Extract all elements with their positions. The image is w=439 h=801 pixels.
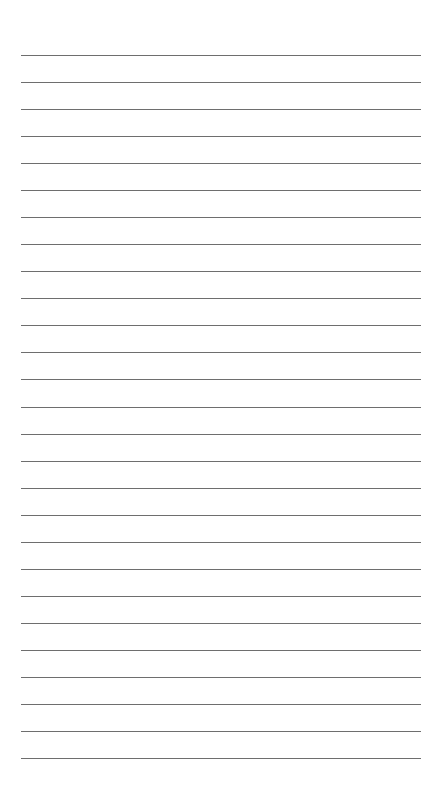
ruled-line	[21, 55, 421, 56]
ruled-line	[21, 217, 421, 218]
ruled-line	[21, 325, 421, 326]
ruled-line	[21, 136, 421, 137]
ruled-line	[21, 271, 421, 272]
ruled-line	[21, 244, 421, 245]
ruled-line	[21, 704, 421, 705]
ruled-line	[21, 461, 421, 462]
ruled-line	[21, 650, 421, 651]
ruled-line	[21, 352, 421, 353]
ruled-line	[21, 731, 421, 732]
ruled-line	[21, 298, 421, 299]
ruled-line	[21, 677, 421, 678]
ruled-line	[21, 569, 421, 570]
ruled-line	[21, 82, 421, 83]
ruled-line	[21, 407, 421, 408]
ruled-line	[21, 488, 421, 489]
ruled-line	[21, 542, 421, 543]
ruled-line	[21, 190, 421, 191]
ruled-line	[21, 758, 421, 759]
ruled-line	[21, 379, 421, 380]
ruled-line	[21, 434, 421, 435]
ruled-line	[21, 623, 421, 624]
ruled-line	[21, 163, 421, 164]
ruled-line	[21, 596, 421, 597]
ruled-line	[21, 515, 421, 516]
ruled-line	[21, 109, 421, 110]
